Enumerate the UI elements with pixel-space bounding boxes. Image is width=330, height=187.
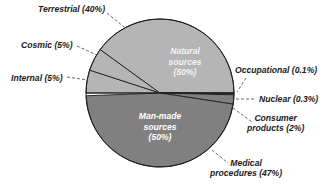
leader-cosmic xyxy=(77,46,97,55)
label-natural-sources: Natural sources (50%) xyxy=(155,46,215,78)
label-terrestrial: Terrestrial (40%) xyxy=(38,4,105,14)
label-manmade-line3: (50%) xyxy=(125,132,195,143)
label-manmade-sources: Man-made sources (50%) xyxy=(125,111,195,143)
label-cosmic: Cosmic (5%) xyxy=(21,40,73,50)
label-consumer-line1: Consumer xyxy=(247,113,304,123)
label-manmade-line2: sources xyxy=(125,122,195,133)
label-medical-line2: procedures (47%) xyxy=(210,168,282,178)
label-consumer-line2: products (2%) xyxy=(247,123,304,133)
label-medical-line1: Medical xyxy=(210,158,282,168)
label-natural-line1: Natural xyxy=(155,46,215,57)
leader-occupational xyxy=(237,78,246,92)
label-occupational: Occupational (0.1%) xyxy=(235,65,317,75)
label-natural-line2: sources xyxy=(155,57,215,68)
leader-internal xyxy=(67,77,88,80)
label-consumer: Consumer products (2%) xyxy=(247,113,304,133)
label-natural-line3: (50%) xyxy=(155,67,215,78)
label-internal: Internal (5%) xyxy=(11,73,63,83)
label-manmade-line1: Man-made xyxy=(125,111,195,122)
pie-slices xyxy=(86,19,234,167)
label-medical: Medical procedures (47%) xyxy=(210,158,282,178)
leader-terrestrial xyxy=(107,13,124,27)
label-nuclear: Nuclear (0.3%) xyxy=(259,94,318,104)
